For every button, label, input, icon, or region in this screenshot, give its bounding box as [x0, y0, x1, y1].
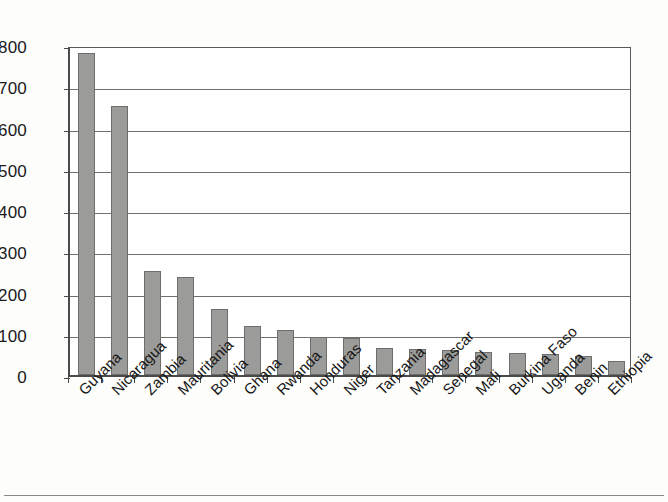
y-axis-tick-label: 0	[0, 369, 27, 386]
y-axis-tick-label: 300	[0, 245, 27, 262]
y-axis-tick-label: 700	[0, 80, 27, 97]
y-axis-tick-label: 200	[0, 286, 27, 303]
y-axis-tick-label: 500	[0, 162, 27, 179]
plot-area	[68, 47, 631, 377]
bottom-divider	[4, 495, 664, 496]
y-axis-tick-label: 400	[0, 204, 27, 221]
bar	[78, 53, 95, 375]
y-axis-tick-label: 800	[0, 39, 27, 56]
bar-chart-figure: 8007006005004003002001000 GuyanaNicaragu…	[0, 0, 668, 502]
page-root: 8007006005004003002001000 GuyanaNicaragu…	[0, 0, 668, 502]
x-axis-labels: GuyanaNicaraguaZambiaMauritaniaBoliviaGh…	[68, 386, 668, 491]
bars-layer	[70, 48, 630, 375]
y-axis-tick-label: 600	[0, 121, 27, 138]
y-axis-tick-label: 100	[0, 327, 27, 344]
x-axis-tick	[68, 377, 69, 383]
bar	[111, 106, 128, 375]
